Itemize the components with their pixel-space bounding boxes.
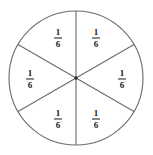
- sector-label-bottom-left: 1 6: [54, 109, 62, 130]
- fraction-denominator: 6: [55, 40, 62, 49]
- fraction-denominator: 6: [93, 121, 100, 130]
- sector-label-right: 1 6: [118, 69, 126, 90]
- center-point-dot: [74, 76, 77, 79]
- fraction-numerator: 1: [93, 28, 100, 37]
- fraction-denominator: 6: [55, 121, 62, 130]
- fraction-numerator: 1: [55, 28, 62, 37]
- fraction-numerator: 1: [93, 109, 100, 118]
- sector-label-top-left: 1 6: [54, 28, 62, 49]
- fraction-denominator: 6: [27, 81, 34, 90]
- sector-label-top-right: 1 6: [92, 28, 100, 49]
- fraction-denominator: 6: [119, 81, 126, 90]
- fraction-denominator: 6: [93, 40, 100, 49]
- sector-label-left: 1 6: [26, 69, 34, 90]
- sector-label-bottom-right: 1 6: [92, 109, 100, 130]
- fraction-circle-figure: 1 6 1 6 1 6 1 6 1 6 1 6: [0, 0, 153, 155]
- fraction-numerator: 1: [119, 69, 126, 78]
- fraction-numerator: 1: [27, 69, 34, 78]
- fraction-numerator: 1: [55, 109, 62, 118]
- circle-diagram-svg: [0, 0, 153, 155]
